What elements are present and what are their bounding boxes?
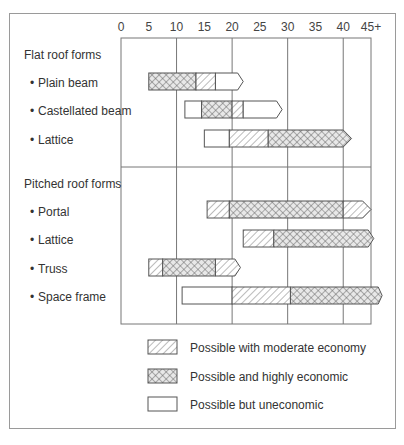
bar-segment-uneconomic <box>204 130 229 147</box>
x-tick: 20 <box>225 20 238 34</box>
bullet-icon: • <box>30 133 38 147</box>
bar-segment-uneconomic <box>243 101 282 118</box>
bar-truss <box>149 259 241 276</box>
bullet-icon: • <box>30 290 38 304</box>
bar-segment-moderate <box>232 101 243 118</box>
bar-segment-highly <box>202 101 233 118</box>
x-tick: 45+ <box>361 20 381 34</box>
bar-lattice <box>243 230 374 247</box>
row-label-lattice-flat: •Lattice <box>30 133 73 147</box>
bar-castellated-beam <box>185 101 282 118</box>
bar-segment-moderate <box>232 287 290 304</box>
bars-group <box>149 73 382 304</box>
x-tick: 25 <box>253 20 266 34</box>
legend-swatch-moderate <box>148 340 177 354</box>
x-tick: 40 <box>337 20 350 34</box>
row-label-plain-beam: •Plain beam <box>30 76 98 90</box>
row-label-lattice-pitched: •Lattice <box>30 233 73 247</box>
bar-segment-moderate <box>207 201 229 218</box>
bar-segment-uneconomic <box>215 73 243 90</box>
bar-lattice <box>204 130 351 147</box>
bar-segment-highly <box>274 230 374 247</box>
x-tick: 0 <box>118 20 125 34</box>
bar-segment-highly <box>163 259 216 276</box>
bar-segment-highly <box>229 201 343 218</box>
bar-segment-moderate <box>243 230 274 247</box>
x-tick: 35 <box>309 20 322 34</box>
x-tick: 10 <box>170 20 183 34</box>
section-title-pitched: Pitched roof forms <box>24 177 121 191</box>
bar-segment-uneconomic <box>185 101 202 118</box>
legend-swatch-uneconomic <box>148 397 177 411</box>
bar-segment-highly <box>290 287 382 304</box>
bar-segment-moderate <box>229 130 268 147</box>
bar-segment-moderate <box>196 73 215 90</box>
bar-segment-highly <box>268 130 351 147</box>
bullet-icon: • <box>30 104 38 118</box>
section-title-flat: Flat roof forms <box>24 48 101 62</box>
bullet-icon: • <box>30 233 38 247</box>
bullet-icon: • <box>30 76 38 90</box>
bullet-icon: • <box>30 262 38 276</box>
bar-plain-beam <box>149 73 243 90</box>
bar-segment-moderate <box>343 201 371 218</box>
bar-space-frame <box>182 287 382 304</box>
legend-label-uneconomic: Possible but uneconomic <box>190 398 323 412</box>
legend-swatches <box>148 340 177 411</box>
bar-segment-moderate <box>149 259 163 276</box>
bar-portal <box>207 201 371 218</box>
bar-segment-uneconomic <box>182 287 232 304</box>
legend-label-highly: Possible and highly economic <box>190 370 348 384</box>
legend-label-moderate: Possible with moderate economy <box>190 341 366 355</box>
row-label-portal: •Portal <box>30 205 69 219</box>
bullet-icon: • <box>30 205 38 219</box>
row-label-truss: •Truss <box>30 262 68 276</box>
row-label-space-frame: •Space frame <box>30 290 106 304</box>
row-label-castellated-beam: •Castellated beam <box>30 104 131 118</box>
x-tick: 30 <box>281 20 294 34</box>
legend-swatch-highly <box>148 369 177 383</box>
x-tick: 5 <box>145 20 152 34</box>
x-tick: 15 <box>198 20 211 34</box>
bar-segment-highly <box>149 73 196 90</box>
bar-segment-moderate <box>215 259 240 276</box>
